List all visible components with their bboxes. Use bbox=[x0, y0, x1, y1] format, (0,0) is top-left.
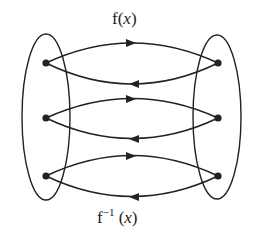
arrowhead-left-icon bbox=[129, 193, 139, 201]
mapping-diagram bbox=[0, 0, 255, 239]
forward-arrow-2 bbox=[46, 99, 218, 119]
arrowhead-right-icon bbox=[126, 95, 136, 103]
domain-element-3 bbox=[42, 172, 49, 179]
domain-element-2 bbox=[42, 114, 49, 121]
codomain-element-1 bbox=[214, 59, 221, 66]
arrowhead-right-icon bbox=[126, 39, 136, 47]
arrowhead-right-icon bbox=[126, 152, 136, 160]
inverse-arrow-1 bbox=[46, 63, 218, 84]
domain-element-1 bbox=[42, 59, 49, 66]
inverse-arrow-3 bbox=[46, 176, 218, 197]
forward-function-label: f(x) bbox=[112, 9, 137, 29]
arrowhead-left-icon bbox=[129, 135, 139, 143]
arrowhead-left-icon bbox=[129, 80, 139, 88]
forward-arrow-1 bbox=[46, 43, 218, 63]
forward-arrow-3 bbox=[46, 156, 218, 177]
codomain-element-3 bbox=[214, 172, 221, 179]
inverse-arrow-2 bbox=[46, 118, 218, 139]
inverse-function-label: f−1 (x) bbox=[97, 208, 138, 228]
codomain-element-2 bbox=[214, 114, 221, 121]
